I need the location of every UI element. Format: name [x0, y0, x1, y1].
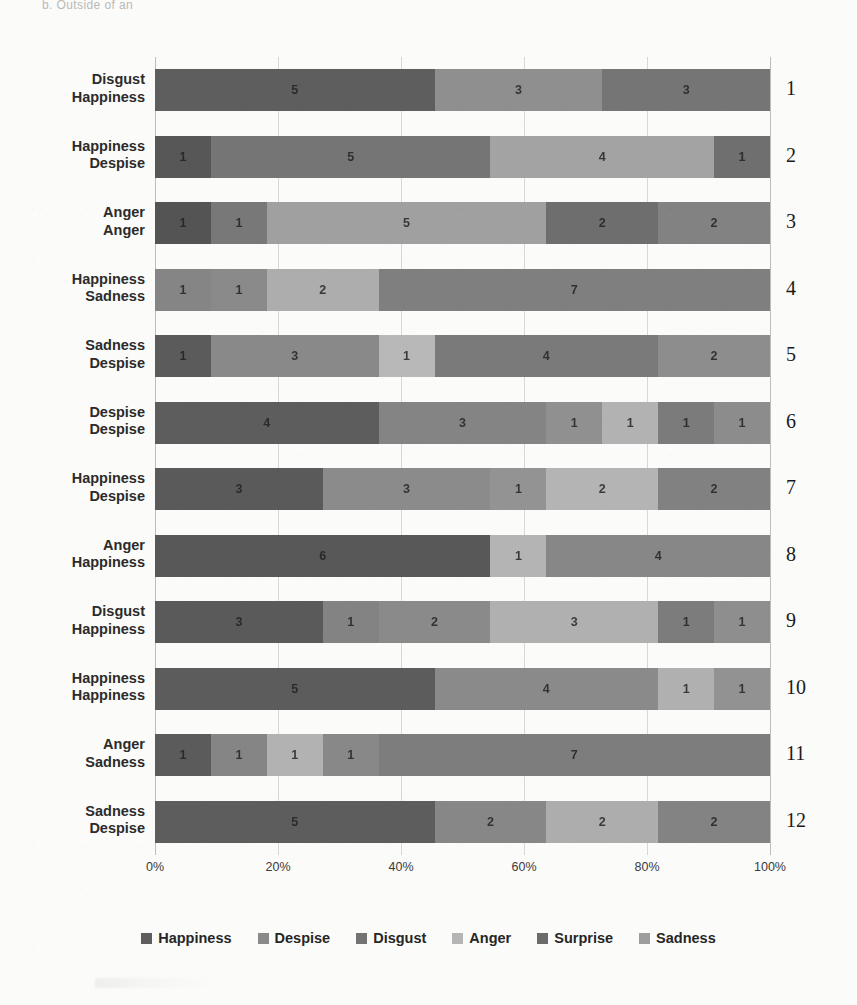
legend-item[interactable]: Anger: [452, 930, 511, 946]
legend-item[interactable]: Despise: [258, 930, 331, 946]
stacked-bar: 5411: [155, 668, 770, 710]
legend-item[interactable]: Disgust: [356, 930, 426, 946]
bar-segment: 2: [267, 269, 379, 311]
stacked-bar: 431111: [155, 402, 770, 444]
bar-segment-value: 2: [711, 815, 718, 829]
x-tick-label: 20%: [265, 860, 290, 874]
row-label-line: Happiness: [0, 271, 145, 289]
bar-segment: 1: [155, 734, 211, 776]
legend-label: Sadness: [656, 930, 716, 946]
row-label-line: Anger: [0, 736, 145, 754]
bar-row: 5411: [155, 656, 770, 723]
legend-item[interactable]: Sadness: [639, 930, 716, 946]
row-label: DisgustHappiness: [0, 71, 145, 106]
bar-segment: 2: [658, 801, 770, 843]
bar-segment: 1: [714, 601, 770, 643]
row-label-line: Sadness: [0, 803, 145, 821]
bar-segment: 1: [211, 202, 267, 244]
row-label: HappinessSadness: [0, 271, 145, 306]
bar-segment-value: 7: [571, 748, 578, 762]
row-label-line: Happiness: [0, 470, 145, 488]
bar-segment: 3: [323, 468, 491, 510]
row-label-line: Anger: [0, 204, 145, 222]
bar-row: 33122: [155, 456, 770, 523]
row-number: 8: [786, 543, 846, 566]
bar-segment: 1: [658, 668, 714, 710]
chart-page: b. Outside of an 53315411152211271314243…: [0, 0, 857, 1005]
row-label-line: Despise: [0, 820, 145, 838]
bar-segment-value: 5: [403, 216, 410, 230]
bar-segment-value: 1: [403, 349, 410, 363]
row-number: 11: [786, 742, 846, 765]
bar-segment: 4: [490, 136, 714, 178]
bar-segment-value: 2: [431, 615, 438, 629]
row-label-line: Sadness: [0, 337, 145, 355]
bar-segment-value: 5: [291, 83, 298, 97]
bar-segment: 1: [267, 734, 323, 776]
bar-segment-value: 4: [599, 150, 606, 164]
legend-swatch-icon: [258, 933, 269, 944]
row-label: AngerSadness: [0, 736, 145, 771]
bar-segment-value: 3: [403, 482, 410, 496]
bar-segment: 5: [267, 202, 547, 244]
bar-segment: 1: [714, 402, 770, 444]
bar-segment: 1: [490, 535, 546, 577]
x-tick-label: 0%: [146, 860, 164, 874]
bar-row: 13142: [155, 323, 770, 390]
row-label-line: Happiness: [0, 687, 145, 705]
stacked-bar: 1127: [155, 269, 770, 311]
legend-swatch-icon: [452, 933, 463, 944]
bar-segment-value: 6: [319, 549, 326, 563]
stacked-bar: 1541: [155, 136, 770, 178]
bar-segment: 1: [658, 402, 714, 444]
bar-segment: 2: [658, 202, 770, 244]
bar-row: 5222: [155, 789, 770, 856]
bar-segment: 2: [658, 335, 770, 377]
legend-label: Happiness: [158, 930, 231, 946]
row-label: HappinessDespise: [0, 138, 145, 173]
bar-segment: 5: [155, 801, 435, 843]
bar-segment: 3: [602, 69, 770, 111]
row-label-line: Happiness: [0, 670, 145, 688]
bar-segment-value: 1: [739, 150, 746, 164]
row-number: 4: [786, 277, 846, 300]
legend-item[interactable]: Surprise: [537, 930, 613, 946]
stacked-bar: 33122: [155, 468, 770, 510]
plot-area: 5331541115221127131424311113312261431231…: [155, 57, 770, 855]
bar-segment-value: 1: [179, 216, 186, 230]
bar-segment-value: 1: [515, 482, 522, 496]
bar-row: 533: [155, 57, 770, 124]
legend-label: Anger: [469, 930, 511, 946]
bar-row: 614: [155, 523, 770, 590]
legend-item[interactable]: Happiness: [141, 930, 231, 946]
bar-row: 1541: [155, 124, 770, 191]
x-tick-label: 60%: [511, 860, 536, 874]
legend-swatch-icon: [141, 933, 152, 944]
bar-segment-value: 1: [571, 416, 578, 430]
row-number: 7: [786, 476, 846, 499]
bar-segment: 4: [546, 535, 770, 577]
legend-label: Despise: [275, 930, 331, 946]
bar-segment: 1: [379, 335, 435, 377]
bar-segment-value: 1: [179, 748, 186, 762]
bar-segment: 5: [155, 668, 435, 710]
row-number: 12: [786, 809, 846, 832]
bar-segment-value: 2: [599, 815, 606, 829]
row-label-line: Anger: [0, 537, 145, 555]
row-number: 2: [786, 144, 846, 167]
bar-segment-value: 2: [711, 482, 718, 496]
bar-segment-value: 2: [599, 482, 606, 496]
bar-segment-value: 2: [711, 349, 718, 363]
legend-swatch-icon: [537, 933, 548, 944]
bar-segment: 2: [546, 801, 658, 843]
row-label-line: Happiness: [0, 89, 145, 107]
bar-segment: 1: [155, 335, 211, 377]
bar-segment-value: 1: [179, 150, 186, 164]
bar-segment-value: 1: [739, 416, 746, 430]
bar-segment: 2: [546, 202, 658, 244]
row-label: SadnessDespise: [0, 803, 145, 838]
bar-segment-value: 4: [655, 549, 662, 563]
bar-segment-value: 4: [543, 349, 550, 363]
stacked-bar: 312311: [155, 601, 770, 643]
row-label: HappinessHappiness: [0, 670, 145, 705]
